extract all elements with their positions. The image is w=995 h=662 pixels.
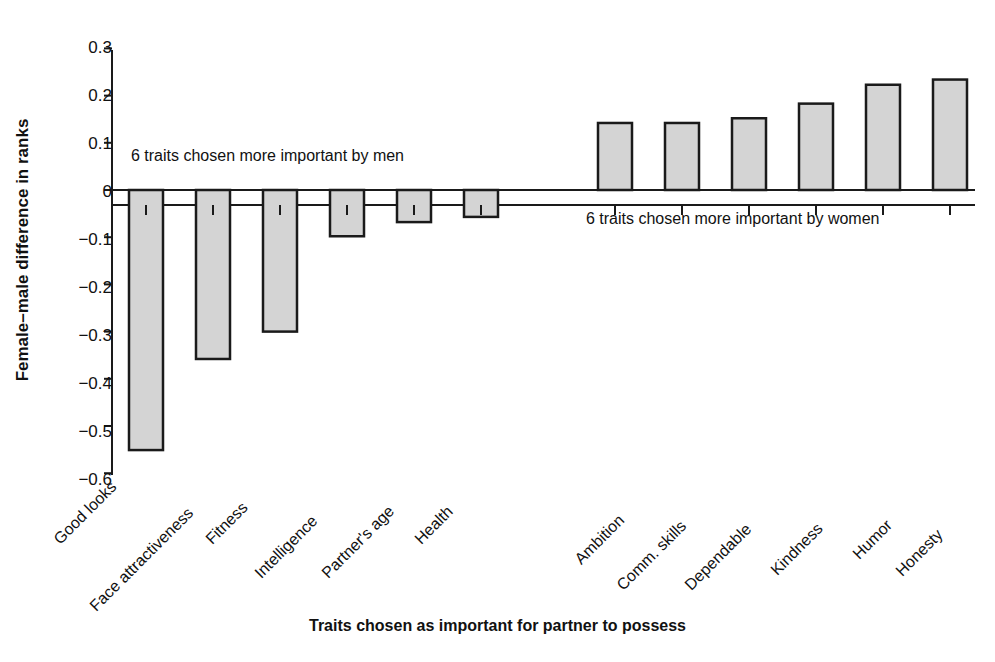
annotation-women: 6 traits chosen more important by women [586, 210, 879, 228]
y-tick-label-7: −0.4 [40, 374, 112, 394]
bar-11 [933, 80, 967, 190]
annotation-men: 6 traits chosen more important by men [131, 147, 404, 165]
bar-6 [598, 123, 632, 190]
bar-9 [799, 104, 833, 190]
y-tick-label-2: 0.1 [46, 134, 112, 154]
bar-10 [866, 85, 900, 190]
bar-1 [196, 190, 230, 359]
y-tick-label-3: 0 [46, 182, 112, 202]
bar-8 [732, 118, 766, 190]
y-tick-label-8: −0.5 [40, 422, 112, 442]
bar-7 [665, 123, 699, 190]
y-tick-label-6: −0.3 [40, 326, 112, 346]
bar-chart-figure: Female–male difference in ranks 0.3 0.2 … [0, 0, 995, 662]
bar-0 [129, 190, 163, 450]
y-tick-label-5: −0.2 [40, 278, 112, 298]
y-tick-label-4: −0.1 [40, 230, 112, 250]
y-tick-label-1: 0.2 [46, 86, 112, 106]
x-axis-title: Traits chosen as important for partner t… [0, 617, 995, 635]
y-axis-title-text: Female–male difference in ranks [13, 119, 33, 382]
y-tick-label-0: 0.3 [46, 38, 112, 58]
